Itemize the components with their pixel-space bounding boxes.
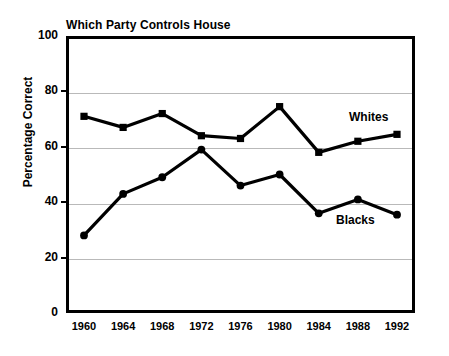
y-tick-label: 20 <box>14 250 58 264</box>
gridline <box>69 259 412 260</box>
y-tick-mark <box>61 201 67 203</box>
y-tick-label: 60 <box>14 139 58 153</box>
gridline <box>69 204 412 205</box>
gridline <box>69 148 412 149</box>
series-label-whites: Whites <box>349 110 388 124</box>
chart-title: Which Party Controls House <box>66 18 231 32</box>
series-label-blacks: Blacks <box>336 213 375 227</box>
y-tick-label: 80 <box>14 83 58 97</box>
y-tick-mark <box>61 257 67 259</box>
y-tick-label: 40 <box>14 194 58 208</box>
gridline <box>69 93 412 94</box>
y-tick-mark <box>61 90 67 92</box>
plot-area <box>66 36 415 313</box>
y-tick-label: 100 <box>14 28 58 42</box>
y-tick-mark <box>61 146 67 148</box>
x-tick-label: 1992 <box>373 320 421 332</box>
y-tick-label: 0 <box>14 305 58 319</box>
chart-container: Which Party Controls House Percentage Co… <box>0 0 449 356</box>
